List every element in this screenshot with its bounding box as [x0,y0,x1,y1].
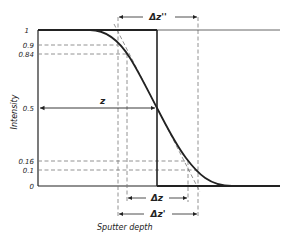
y-tick-0.16: 0.16 [18,158,34,166]
y-axis-label: Intensity [10,94,19,129]
y-tick-0: 0 [30,183,35,191]
delta-z-dimension: Δz [128,193,187,203]
z-dimension: z [40,96,155,108]
y-tick-0.1: 0.1 [23,167,34,175]
depth-resolution-diagram: 1 0.9 0.84 0.5 0.16 0.1 0 Intensity Sput… [0,0,291,240]
delta-z-double-prime-dimension: Δz'' [119,12,197,22]
y-tick-labels: 1 0.9 0.84 0.5 0.16 0.1 0 [18,27,34,191]
y-tick-0.9: 0.9 [23,42,35,50]
delta-z-double-prime-label: Δz'' [148,12,167,22]
y-tick-1: 1 [25,27,29,35]
x-axis-label: Sputter depth [97,223,153,232]
dashed-guides [38,17,200,218]
z-label: z [99,96,106,106]
delta-z-prime-dimension: Δz' [119,209,197,219]
delta-z-label: Δz [150,193,164,203]
y-tick-0.84: 0.84 [18,51,34,59]
y-tick-0.5: 0.5 [23,105,35,113]
delta-z-prime-label: Δz' [150,209,166,219]
